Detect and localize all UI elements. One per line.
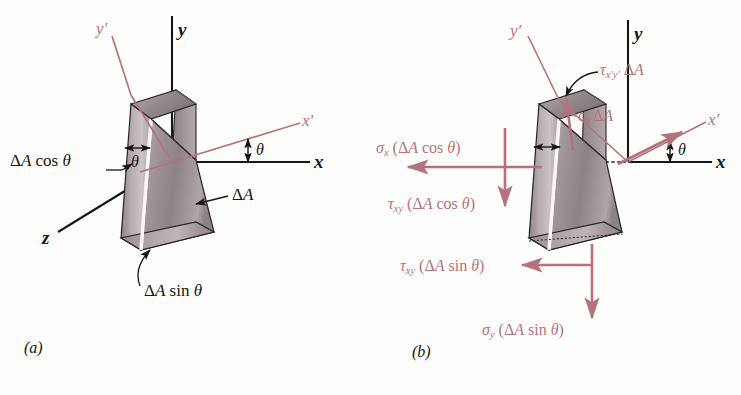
axis-label-x-prime: x': [302, 112, 313, 129]
glyph-sin: sin: [170, 281, 190, 300]
glyph-paren-close: ): [470, 195, 475, 212]
glyph-subscript-y: y: [490, 329, 495, 340]
glyph-subscript-xprime-yprime: x′y′: [606, 69, 620, 80]
panel-a: y x z y' x' θ θ ΔA cos θ ΔA ΔA sin θ (a): [0, 0, 370, 395]
glyph-A: A: [603, 107, 613, 124]
glyph-subscript-xy: xy: [406, 265, 415, 276]
axis-label-z: z: [42, 228, 49, 247]
force-label-tau-xy-dA-sin-theta: τxy (ΔA sin θ): [400, 258, 484, 277]
glyph-paren-close: ): [479, 257, 484, 274]
glyph-sigma: σ: [482, 321, 490, 338]
glyph-A: A: [514, 321, 524, 338]
axis-label-x: x: [314, 152, 324, 171]
panel-tag-a: (a): [24, 340, 43, 356]
glyph-delta: Δ: [412, 195, 422, 212]
dimension-label-dA-cos-theta: ΔA cos θ: [10, 152, 71, 169]
glyph-delta: Δ: [144, 281, 155, 300]
glyph-theta: θ: [194, 281, 202, 300]
glyph-delta: Δ: [398, 139, 408, 156]
glyph-delta: Δ: [424, 257, 434, 274]
glyph-A: A: [423, 195, 433, 212]
glyph-theta: θ: [471, 257, 479, 274]
axis-label-y-prime: y': [96, 20, 107, 37]
glyph-A: A: [243, 185, 253, 204]
axis-label-y: y: [634, 24, 642, 43]
axis-label-y-prime: y': [510, 22, 521, 39]
glyph-theta: θ: [462, 195, 470, 212]
dimension-label-dA: ΔA: [232, 186, 253, 203]
glyph-delta: Δ: [593, 107, 603, 124]
glyph-sin: sin: [528, 321, 547, 338]
glyph-cos: cos: [422, 139, 443, 156]
figure-container: y x z y' x' θ θ ΔA cos θ ΔA ΔA sin θ (a): [0, 0, 741, 395]
glyph-subscript-xprime: x′: [586, 115, 593, 126]
glyph-cos: cos: [36, 151, 59, 170]
force-label-sigma-y-dA-sin-theta: σy (ΔA sin θ): [482, 322, 564, 341]
panel-tag-b: (b): [412, 344, 431, 360]
glyph-theta: θ: [551, 321, 559, 338]
glyph-delta: Δ: [624, 61, 634, 78]
glyph-sin: sin: [449, 257, 468, 274]
glyph-delta: Δ: [232, 185, 243, 204]
theta-label-x-axis: θ: [256, 142, 264, 158]
glyph-sigma: σ: [578, 107, 586, 124]
panel-b: y x y' x' θ τx′y′ ΔA σx′ΔA σx (ΔA cos θ)…: [370, 0, 741, 395]
axis-label-y: y: [178, 20, 186, 39]
glyph-paren-close: ): [559, 321, 564, 338]
theta-label-x-axis: θ: [678, 142, 686, 158]
glyph-theta: θ: [63, 151, 71, 170]
glyph-sigma: σ: [376, 139, 384, 156]
force-label-sigma-x-dA-cos-theta: σx (ΔA cos θ): [376, 140, 461, 159]
glyph-A: A: [155, 281, 165, 300]
axis-x-prime: [628, 122, 706, 162]
glyph-theta: θ: [447, 139, 455, 156]
force-label-tau-xprime-yprime-dA: τx′y′ ΔA: [600, 62, 644, 81]
panel-a-artwork: [0, 0, 370, 395]
glyph-subscript-x: x: [384, 147, 389, 158]
glyph-paren-close: ): [455, 139, 460, 156]
glyph-delta: Δ: [504, 321, 514, 338]
glyph-A: A: [634, 61, 644, 78]
glyph-A: A: [408, 139, 418, 156]
force-label-sigma-xprime-dA: σx′ΔA: [578, 108, 613, 127]
glyph-delta: Δ: [10, 151, 21, 170]
axis-label-x-prime: x': [708, 111, 719, 128]
glyph-cos: cos: [437, 195, 458, 212]
glyph-A: A: [435, 257, 445, 274]
theta-label-wedge: θ: [131, 154, 139, 170]
axis-label-x: x: [716, 152, 726, 171]
wedge-prism-a: [121, 90, 214, 250]
glyph-A: A: [21, 151, 31, 170]
force-label-tau-xy-dA-cos-theta: τxy (ΔA cos θ): [388, 196, 475, 215]
dimension-label-dA-sin-theta: ΔA sin θ: [144, 282, 202, 299]
glyph-subscript-xy: xy: [394, 203, 403, 214]
